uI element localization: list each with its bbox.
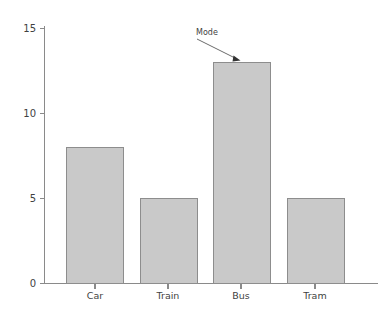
y-axis-tick-label-10: 10 <box>23 108 36 119</box>
bar-car[interactable] <box>67 148 124 284</box>
x-axis-label-car: Car <box>87 290 103 301</box>
y-axis-tick-label-0: 0 <box>30 278 36 289</box>
bar-tram[interactable] <box>288 199 345 284</box>
y-axis-tick-label-15: 15 <box>23 23 36 34</box>
x-axis-label-tram: Tram <box>302 290 326 301</box>
bar-bus[interactable] <box>214 63 271 284</box>
bar-train[interactable] <box>141 199 198 284</box>
x-axis-label-bus: Bus <box>232 290 250 301</box>
x-axis-label-train: Train <box>156 290 180 301</box>
y-axis-tick-label-5: 5 <box>30 193 36 204</box>
annotation-label-mode: Mode <box>196 28 218 37</box>
chart-canvas: 0 5 10 15 Car Train Bus Tram Mode <box>0 0 388 314</box>
bar-chart-figure: 0 5 10 15 Car Train Bus Tram Mode <box>0 0 388 314</box>
